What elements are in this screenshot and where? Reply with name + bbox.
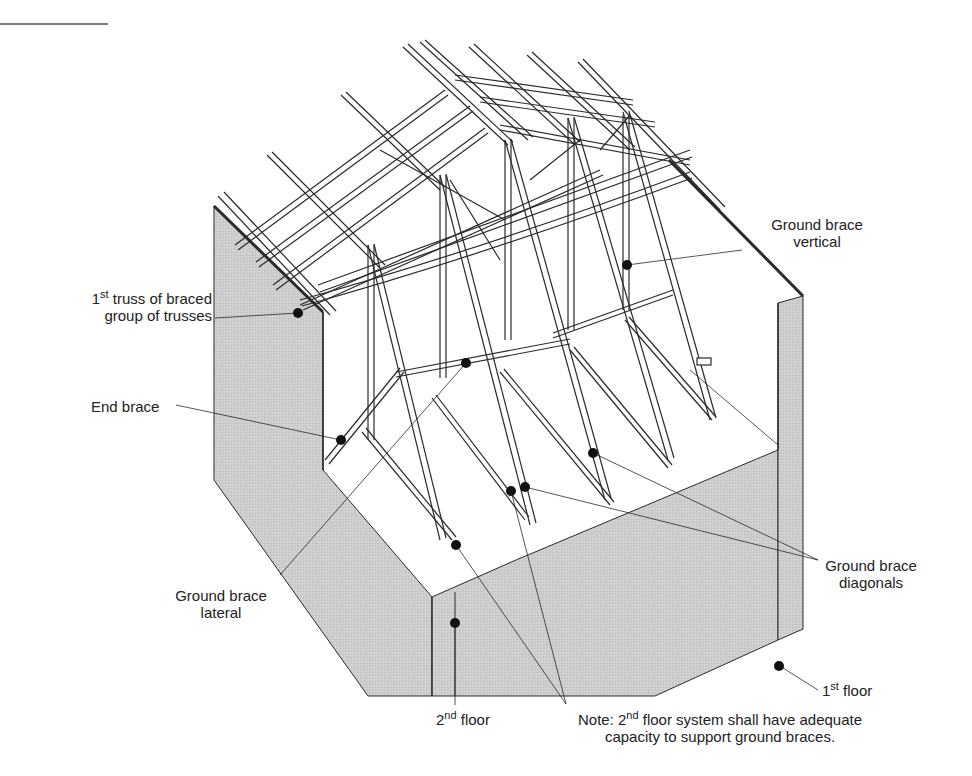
dot-diagonal-1 (588, 448, 598, 458)
label-line: Ground brace (762, 216, 872, 233)
dot-second-floor (450, 618, 460, 628)
label-text: Note: 2 (578, 711, 626, 728)
label-second-floor: 2nd floor (436, 711, 490, 728)
dot-first-truss (293, 308, 303, 318)
label-text: floor (457, 711, 490, 728)
label-first-floor: 1st floor (822, 682, 872, 699)
label-line: capacity to support ground braces. (545, 728, 895, 745)
walls (214, 160, 803, 696)
label-sup: nd (444, 709, 456, 721)
label-end-brace: End brace (91, 398, 159, 415)
dot-diagonal-2 (520, 482, 530, 492)
dot-ground-brace-vertical (622, 260, 632, 270)
label-line: diagonals (816, 574, 926, 591)
label-text: End brace (91, 398, 159, 415)
truss-bracing-diagram (0, 0, 972, 776)
label-note: Note: 2nd floor system shall have adequa… (545, 711, 895, 745)
label-line: Ground brace (816, 557, 926, 574)
dot-lateral (461, 358, 471, 368)
label-text: floor system shall have adequate (639, 711, 862, 728)
label-sup: nd (626, 709, 638, 721)
label-line: group of trusses (52, 307, 212, 324)
label-ground-brace-vertical: Ground brace vertical (762, 216, 872, 250)
label-sup: st (830, 680, 839, 692)
dot-note-1 (506, 486, 516, 496)
ground-braces (325, 111, 716, 540)
dot-end-brace (336, 435, 346, 445)
label-line: lateral (166, 604, 276, 621)
right-wall (778, 296, 803, 640)
label-text: truss of braced (109, 290, 212, 307)
label-line: Ground brace (166, 587, 276, 604)
label-sup: st (100, 288, 109, 300)
label-num: 1 (92, 290, 100, 307)
dot-note-2 (451, 540, 461, 550)
label-line: vertical (762, 233, 872, 250)
label-ground-brace-lateral: Ground brace lateral (166, 587, 276, 621)
label-first-truss: 1st truss of braced group of trusses (52, 290, 212, 324)
label-ground-brace-diagonals: Ground brace diagonals (816, 557, 926, 591)
label-text: floor (839, 682, 872, 699)
truss-verticals (368, 115, 629, 440)
front-floor-band (432, 450, 778, 696)
dot-first-floor (774, 661, 784, 671)
